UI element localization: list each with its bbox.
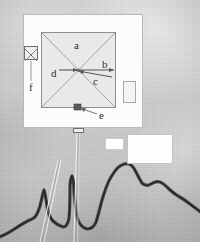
label-a: a — [74, 40, 79, 51]
large-white-box — [127, 134, 173, 164]
label-f: f — [29, 82, 33, 93]
marker-block-e — [74, 104, 81, 110]
label-e: e — [99, 110, 104, 121]
x-box-strokes — [25, 49, 37, 61]
small-white-box — [105, 138, 124, 150]
label-d: d — [51, 68, 57, 79]
label-c: c — [93, 76, 98, 87]
arrow-right-icon-d — [59, 68, 78, 72]
x-box-icon — [24, 46, 38, 60]
nozzle-icon — [73, 128, 84, 133]
annotation-layer — [0, 0, 200, 242]
right-outline-box — [123, 81, 136, 103]
center-node — [76, 68, 79, 71]
label-b: b — [102, 59, 108, 70]
figure-root: a b c d e f — [0, 0, 200, 242]
